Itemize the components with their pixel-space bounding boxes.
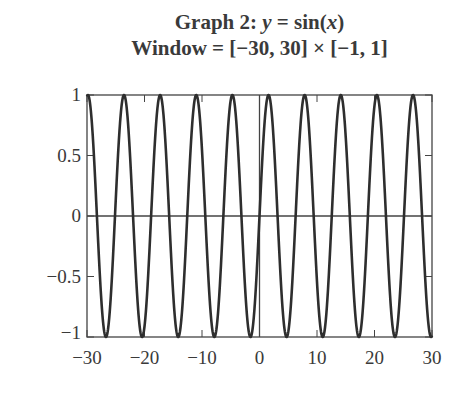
x-tick-label: −30 bbox=[72, 347, 102, 368]
plot-area: −30−20−100102030−1−0.500.51 bbox=[0, 0, 467, 393]
x-tick-label: −20 bbox=[130, 347, 160, 368]
x-tick-label: 10 bbox=[308, 347, 327, 368]
y-tick-label: −0.5 bbox=[47, 266, 81, 287]
x-tick-label: −10 bbox=[187, 347, 217, 368]
x-tick-label: 30 bbox=[423, 347, 442, 368]
x-tick-label: 0 bbox=[255, 347, 265, 368]
y-tick-label: 0 bbox=[72, 205, 82, 226]
x-tick-label: 20 bbox=[365, 347, 384, 368]
y-tick-label: −1 bbox=[61, 322, 81, 343]
y-tick-label: 0.5 bbox=[57, 145, 81, 166]
y-tick-label: 1 bbox=[72, 84, 82, 105]
